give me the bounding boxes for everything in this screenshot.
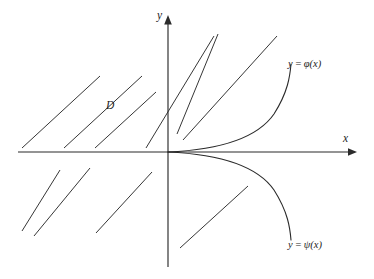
region-label-d: D bbox=[106, 100, 114, 112]
curve-psi-label-equals: = bbox=[295, 239, 302, 250]
x-axis-label: x bbox=[343, 133, 348, 145]
hatch-line bbox=[177, 34, 218, 134]
curve-phi bbox=[168, 64, 291, 152]
curve-phi-label-y: y bbox=[288, 58, 293, 69]
curve-phi-label-equals: = bbox=[295, 58, 302, 69]
curve-psi-label-y: y bbox=[288, 239, 293, 250]
curve-psi bbox=[168, 152, 291, 240]
hatch-line bbox=[96, 172, 152, 233]
hatch-line bbox=[34, 168, 90, 236]
hatch-line bbox=[180, 186, 248, 248]
hatch-line bbox=[95, 92, 156, 148]
figure-region-d: y x D y=φ(x) y=ψ(x) bbox=[0, 0, 374, 279]
hatch-line bbox=[22, 76, 100, 148]
curve-phi-label-function: φ(x) bbox=[304, 58, 321, 69]
diagram-canvas bbox=[0, 0, 374, 279]
hatch-line bbox=[146, 36, 214, 148]
curve-phi-label: y=φ(x) bbox=[288, 59, 321, 70]
hatch-line bbox=[22, 170, 60, 231]
hatching-group bbox=[22, 34, 277, 248]
axes-group bbox=[18, 15, 357, 267]
curve-psi-label-function: ψ(x) bbox=[304, 239, 322, 250]
y-axis-label: y bbox=[157, 10, 162, 22]
curve-psi-label: y=ψ(x) bbox=[288, 240, 322, 251]
y-axis-arrow-icon bbox=[164, 15, 172, 25]
hatch-line bbox=[183, 36, 277, 140]
x-axis-arrow-icon bbox=[348, 148, 357, 156]
hatch-line bbox=[64, 76, 142, 148]
